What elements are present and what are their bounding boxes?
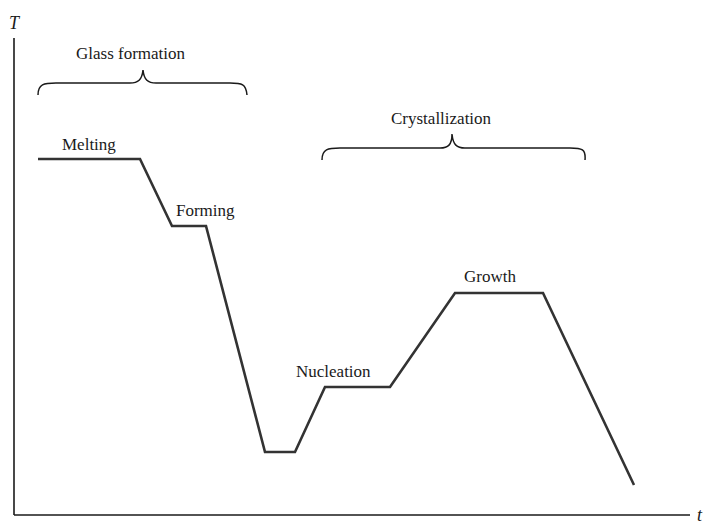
y-axis-label: T xyxy=(9,14,19,32)
temperature-time-diagram: T t Glass formation Crystallization Melt… xyxy=(0,0,710,524)
temperature-profile-line xyxy=(38,159,634,485)
nucleation-label: Nucleation xyxy=(296,363,371,380)
crystallization-brace xyxy=(322,134,585,160)
diagram-graphics xyxy=(0,0,710,524)
forming-label: Forming xyxy=(176,202,235,219)
x-axis-label: t xyxy=(697,506,702,524)
growth-label: Growth xyxy=(464,268,516,285)
melting-label: Melting xyxy=(62,136,116,153)
glass-formation-label: Glass formation xyxy=(76,45,185,62)
glass-formation-brace xyxy=(38,70,247,95)
crystallization-label: Crystallization xyxy=(391,110,491,127)
